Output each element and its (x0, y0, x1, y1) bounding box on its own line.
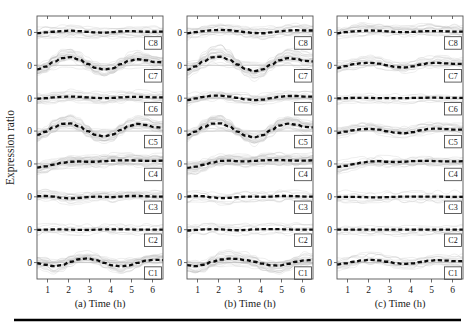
x-tick-label: 1 (195, 285, 200, 295)
x-tick-label: 4 (258, 285, 263, 295)
y-tick-label-zero: 0 (177, 61, 182, 71)
y-tick-label-zero: 0 (177, 258, 182, 268)
x-tick-label: 6 (450, 285, 455, 295)
x-tick-label: 3 (387, 285, 392, 295)
y-axis-label: Expression ratio (4, 110, 17, 185)
x-tick-label: 2 (366, 285, 371, 295)
x-tick-label: 6 (300, 285, 305, 295)
y-tick-label-zero: 0 (327, 258, 332, 268)
cluster-label-C5: C5 (448, 138, 457, 147)
y-tick-label-zero: 0 (27, 192, 32, 202)
cluster-label-C8: C8 (448, 39, 457, 48)
panel-c: 0C80C70C60C50C40C30C20C1123456 (327, 16, 463, 295)
x-tick-label: 3 (237, 285, 242, 295)
panel-b: 0C80C70C60C50C40C30C20C1123456 (177, 16, 313, 295)
y-tick-label-zero: 0 (177, 126, 182, 136)
cluster-label-C8: C8 (298, 39, 307, 48)
cluster-label-C6: C6 (298, 105, 307, 114)
y-tick-label-zero: 0 (27, 94, 32, 104)
subplot-a-C6 (37, 89, 163, 104)
cluster-label-C6: C6 (448, 105, 457, 114)
cluster-label-C7: C7 (448, 72, 457, 81)
x-tick-label: 4 (108, 285, 113, 295)
cluster-label-C3: C3 (448, 203, 457, 212)
y-tick-label-zero: 0 (27, 126, 32, 136)
y-tick-label-zero: 0 (327, 126, 332, 136)
y-tick-label-zero: 0 (27, 159, 32, 169)
y-tick-label-zero: 0 (327, 61, 332, 71)
x-tick-label: 4 (408, 285, 413, 295)
cluster-label-C3: C3 (148, 203, 157, 212)
cluster-label-C2: C2 (148, 236, 157, 245)
y-tick-label-zero: 0 (327, 225, 332, 235)
y-tick-label-zero: 0 (327, 192, 332, 202)
panel-caption-a: (a) Time (h) (75, 298, 126, 310)
cluster-label-C4: C4 (148, 170, 157, 179)
cluster-label-C2: C2 (448, 236, 457, 245)
y-tick-label-zero: 0 (27, 258, 32, 268)
x-tick-label: 5 (279, 285, 284, 295)
y-tick-label-zero: 0 (177, 94, 182, 104)
x-tick-label: 1 (345, 285, 350, 295)
panel-caption-c: (c) Time (h) (375, 298, 426, 310)
x-tick-label: 6 (150, 285, 155, 295)
y-tick-label-zero: 0 (27, 61, 32, 71)
cluster-label-C8: C8 (148, 39, 157, 48)
cluster-label-C7: C7 (298, 72, 307, 81)
cluster-label-C4: C4 (298, 170, 307, 179)
x-tick-label: 5 (129, 285, 134, 295)
cluster-label-C1: C1 (448, 269, 457, 278)
y-tick-label-zero: 0 (177, 225, 182, 235)
y-tick-label-zero: 0 (177, 159, 182, 169)
cluster-label-C3: C3 (298, 203, 307, 212)
figure-container: 0C80C70C60C50C40C30C20C1123456(a) Time (… (0, 0, 475, 333)
cluster-label-C2: C2 (298, 236, 307, 245)
y-tick-label-zero: 0 (177, 28, 182, 38)
gene-trace (37, 190, 163, 196)
y-tick-label-zero: 0 (327, 94, 332, 104)
expression-ratio-cluster-figure: 0C80C70C60C50C40C30C20C1123456(a) Time (… (0, 0, 475, 333)
panel-a: 0C80C70C60C50C40C30C20C1123456 (27, 16, 163, 295)
x-tick-label: 2 (216, 285, 221, 295)
x-tick-label: 1 (45, 285, 50, 295)
gene-trace (337, 226, 463, 229)
y-tick-label-zero: 0 (177, 192, 182, 202)
cluster-label-C4: C4 (448, 170, 457, 179)
cluster-label-C1: C1 (298, 269, 307, 278)
cluster-label-C1: C1 (148, 269, 157, 278)
y-tick-label-zero: 0 (27, 225, 32, 235)
cluster-label-C5: C5 (298, 138, 307, 147)
cluster-label-C6: C6 (148, 105, 157, 114)
x-tick-label: 2 (66, 285, 71, 295)
cluster-label-C5: C5 (148, 138, 157, 147)
x-tick-label: 5 (429, 285, 434, 295)
gene-trace (337, 58, 463, 62)
y-tick-label-zero: 0 (27, 28, 32, 38)
y-tick-label-zero: 0 (327, 159, 332, 169)
panel-caption-b: (b) Time (h) (224, 298, 276, 310)
x-tick-label: 3 (87, 285, 92, 295)
cluster-label-C7: C7 (148, 72, 157, 81)
y-tick-label-zero: 0 (327, 28, 332, 38)
